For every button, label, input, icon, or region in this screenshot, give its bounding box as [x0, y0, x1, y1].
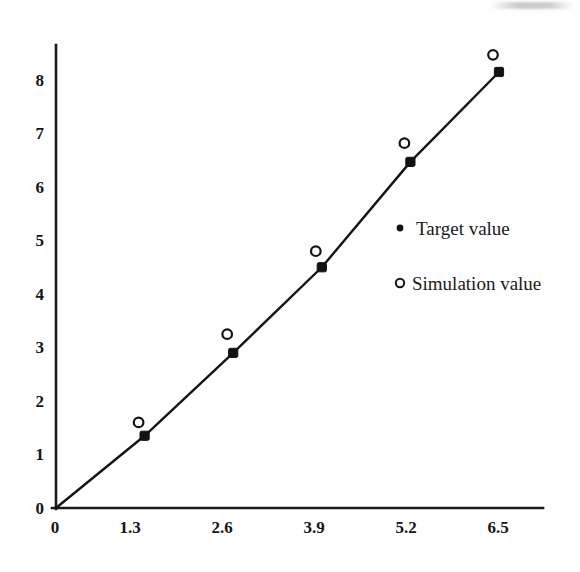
y-tick-label: 7 — [36, 124, 45, 143]
filled-dot-icon — [397, 225, 404, 232]
data-point-target — [317, 263, 326, 272]
chart-container: 8 7 6 5 4 3 2 1 0 0 1.3 2.6 3.9 5.2 6.5 … — [0, 0, 580, 572]
legend-label-simulation: Simulation value — [412, 273, 541, 294]
x-tick-label: 0 — [51, 518, 60, 537]
y-tick-label: 5 — [36, 231, 45, 250]
y-tick-label: 4 — [36, 285, 45, 304]
data-point-target — [229, 348, 238, 357]
x-tick-label: 6.5 — [487, 518, 508, 537]
data-point-simulation — [222, 329, 232, 339]
y-tick-label: 6 — [36, 178, 45, 197]
data-point-target — [406, 157, 415, 166]
data-point-target — [140, 431, 149, 440]
legend-label-target: Target value — [416, 218, 510, 239]
legend: Target value Simulation value — [396, 218, 541, 294]
x-tick-label: 3.9 — [303, 518, 324, 537]
y-tick-label: 3 — [36, 338, 45, 357]
y-tick-label: 8 — [36, 71, 45, 90]
x-tick-label: 5.2 — [395, 518, 416, 537]
data-point-simulation — [400, 138, 410, 148]
data-point-simulation — [488, 50, 498, 60]
x-tick-label: 1.3 — [119, 518, 140, 537]
y-tick-label: 2 — [36, 392, 45, 411]
y-tick-label: 1 — [36, 445, 45, 464]
data-point-simulation — [311, 246, 321, 256]
y-tick-label: 0 — [36, 499, 45, 518]
open-circle-icon — [396, 279, 404, 287]
data-point-simulation — [134, 418, 144, 428]
x-tick-label: 2.6 — [211, 518, 232, 537]
data-point-target — [494, 67, 503, 76]
scatter-line-plot: 8 7 6 5 4 3 2 1 0 0 1.3 2.6 3.9 5.2 6.5 … — [0, 0, 580, 572]
